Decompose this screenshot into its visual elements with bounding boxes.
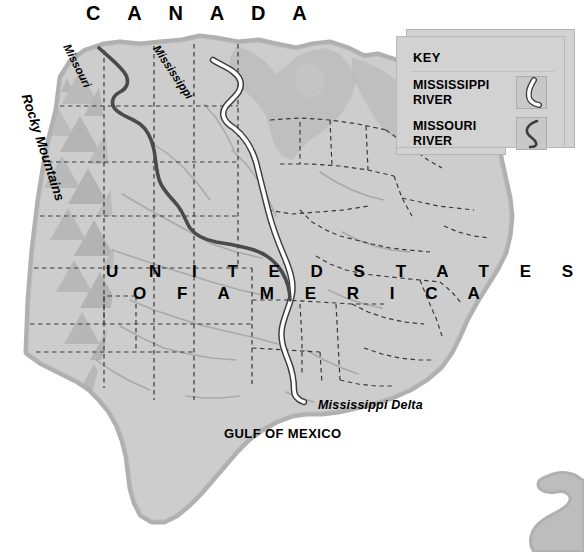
map-key: KEY MISSISSIPPI RIVER MISSOURI RIVER xyxy=(396,29,575,155)
key-title: KEY xyxy=(413,50,441,65)
key-entry-missouri-label: MISSOURI RIVER xyxy=(413,119,476,149)
key-main-panel: KEY MISSISSIPPI RIVER MISSOURI RIVER xyxy=(396,36,565,148)
key-label-line1: MISSOURI xyxy=(413,119,476,133)
key-label-line1: MISSISSIPPI xyxy=(413,78,490,92)
landmass-florida xyxy=(531,473,584,552)
map-container: C A N A D A U N I T E D S T A T E S O F … xyxy=(0,0,584,552)
key-swatch-mississippi-river xyxy=(516,76,547,109)
key-label-line2: RIVER xyxy=(413,93,452,107)
key-divider xyxy=(411,71,555,72)
key-entry-mississippi-label: MISSISSIPPI RIVER xyxy=(413,78,490,108)
key-swatch-missouri-river xyxy=(516,117,547,150)
key-label-line2: RIVER xyxy=(413,134,452,148)
